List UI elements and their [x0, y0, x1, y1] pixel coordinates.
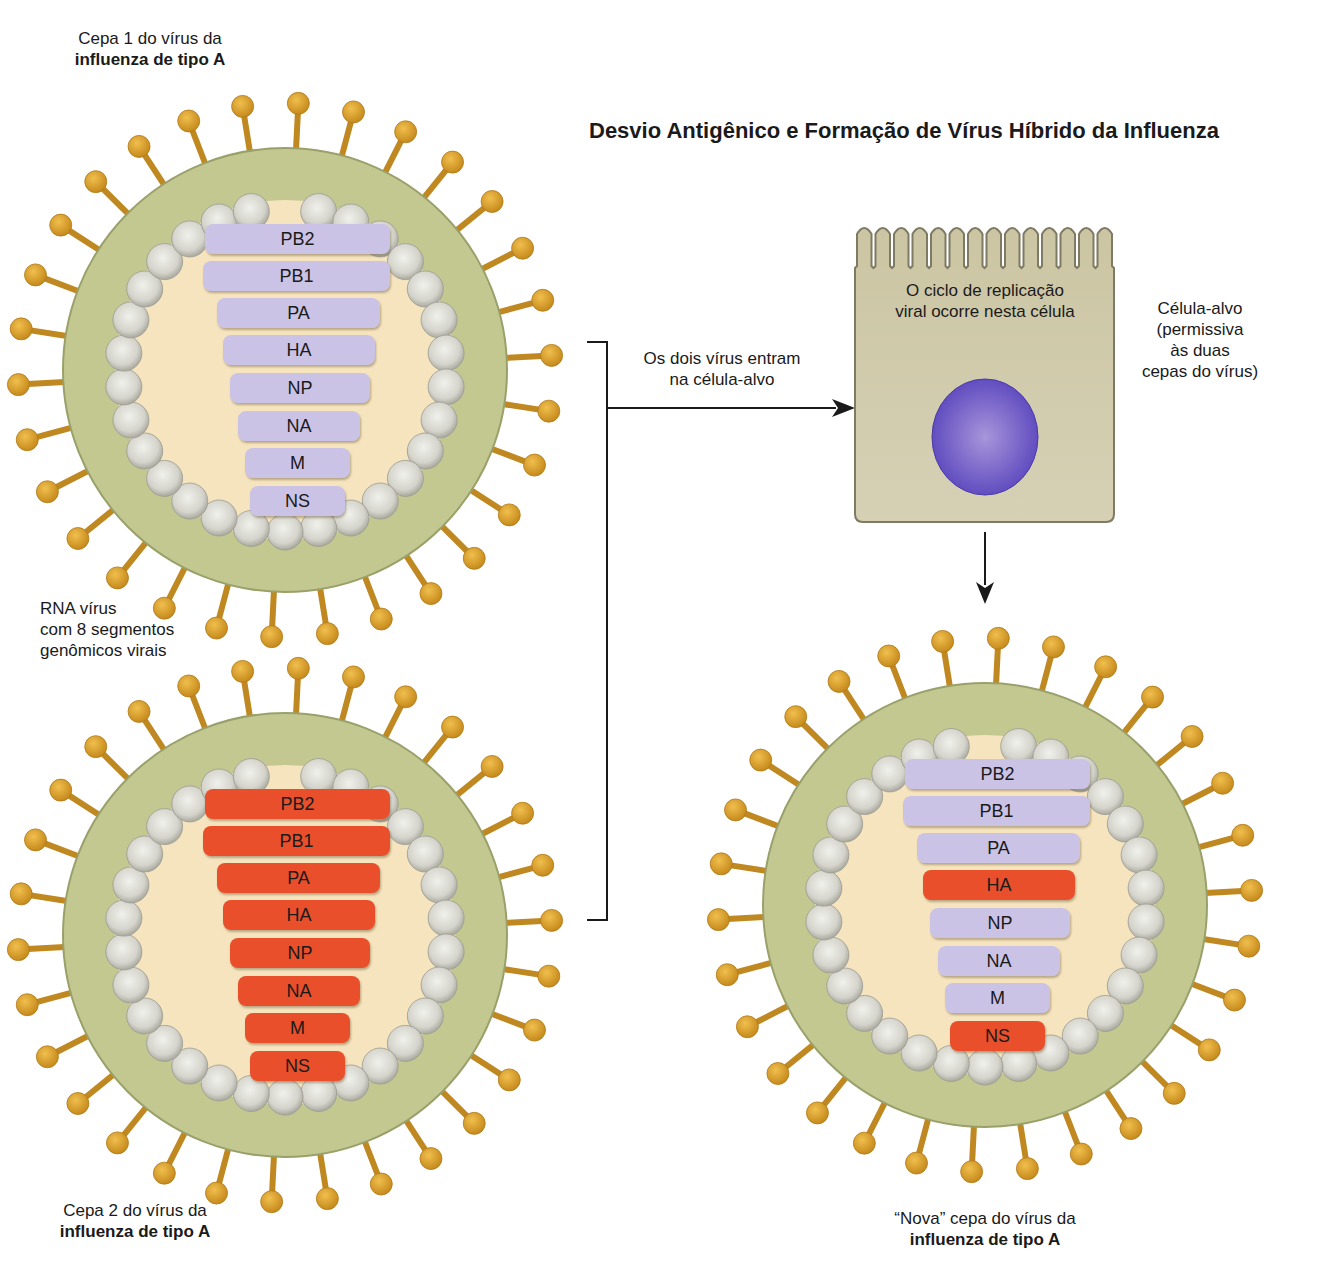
rna-segment-label: NS — [285, 491, 310, 511]
nucleoprotein-bead-icon — [428, 900, 464, 936]
spike-protein-icon — [7, 374, 69, 396]
spike-protein-icon — [16, 991, 76, 1015]
virus2-caption: Cepa 2 do vírus da influenza de tipo A — [25, 1200, 245, 1242]
spike-protein-icon — [421, 151, 464, 202]
spike-protein-icon — [716, 961, 776, 985]
virus2-caption-line1: Cepa 2 do vírus da — [25, 1200, 245, 1221]
entry-label-line1: Os dois vírus entram — [612, 348, 832, 369]
virus3-caption-line1: “Nova” cepa do vírus da — [860, 1208, 1110, 1229]
nucleoprotein-bead-icon — [421, 302, 457, 338]
spike-protein-icon — [261, 1151, 283, 1213]
spike-protein-icon — [710, 853, 771, 875]
rna-segment-label: NA — [286, 416, 311, 436]
spike-protein-icon — [363, 1136, 392, 1195]
spike-protein-icon — [25, 264, 84, 293]
spike-protein-icon — [383, 686, 417, 742]
spike-protein-icon — [153, 1128, 187, 1184]
spike-protein-icon — [50, 779, 104, 818]
cell-side-line1: Célula-alvo — [1120, 298, 1280, 319]
spike-protein-icon — [494, 854, 554, 878]
rna-segment-np: NP — [230, 373, 370, 403]
spike-protein-icon — [498, 400, 559, 422]
rna-segment-na: NA — [238, 411, 360, 441]
cell-side-line2: (permissiva — [1120, 319, 1280, 340]
spike-protein-icon — [1201, 879, 1263, 901]
spike-protein-icon — [36, 469, 92, 503]
nucleoprotein-bead-icon — [106, 369, 142, 405]
rna-segment-label: HA — [286, 905, 311, 925]
nucleoprotein-bead-icon — [113, 967, 149, 1003]
entry-label-line2: na célula-alvo — [612, 369, 832, 390]
spike-protein-icon — [421, 716, 464, 767]
spike-protein-icon — [363, 571, 392, 630]
rna-label-line2: com 8 segmentos — [40, 619, 174, 640]
rna-segment-pa: PA — [917, 833, 1080, 863]
rna-segment-label: HA — [986, 875, 1011, 895]
spike-protein-icon — [232, 95, 254, 156]
spike-protein-icon — [7, 939, 69, 961]
rna-segment-m: M — [245, 448, 350, 478]
nucleoprotein-bead-icon — [267, 514, 303, 550]
target-cell — [855, 228, 1114, 522]
spike-protein-icon — [961, 1121, 983, 1183]
spike-protein-icon — [494, 289, 554, 313]
rna-segment-label: PB1 — [979, 801, 1013, 821]
spike-protein-icon — [178, 110, 207, 169]
virus3-caption: “Nova” cepa do vírus da influenza de tip… — [860, 1208, 1110, 1250]
spike-protein-icon — [853, 1098, 887, 1154]
spike-protein-icon — [438, 1087, 485, 1134]
spike-protein-icon — [1083, 656, 1117, 712]
rna-segment-label: PB1 — [279, 266, 313, 286]
rna-segment-m: M — [945, 983, 1050, 1013]
rna-segment-label: NA — [286, 981, 311, 1001]
rna-segment-pa: PA — [217, 863, 380, 893]
spike-protein-icon — [128, 700, 167, 754]
rna-segment-label: M — [290, 1018, 305, 1038]
spike-protein-icon — [750, 749, 804, 788]
rna-label-line1: RNA vírus — [40, 598, 174, 619]
spike-protein-icon — [50, 214, 104, 253]
virus-new-strain: PB2PB1PAHANPNAMNS — [707, 627, 1262, 1182]
spike-protein-icon — [1194, 824, 1254, 848]
nucleoprotein-bead-icon — [106, 335, 142, 371]
spike-protein-icon — [466, 1052, 520, 1091]
cell-side-line4: cepas do vírus) — [1120, 361, 1280, 382]
spike-protein-icon — [498, 965, 559, 987]
spike-protein-icon — [106, 1103, 149, 1154]
rna-segment-label: PB2 — [980, 764, 1014, 784]
nucleoprotein-bead-icon — [428, 934, 464, 970]
spike-protein-icon — [10, 318, 71, 340]
spike-protein-icon — [878, 645, 907, 704]
spike-protein-icon — [340, 666, 364, 726]
spike-protein-icon — [453, 755, 504, 798]
nucleoprotein-bead-icon — [428, 369, 464, 405]
spike-protein-icon — [453, 190, 504, 233]
rna-segment-label: M — [990, 988, 1005, 1008]
nucleoprotein-bead-icon — [806, 870, 842, 906]
spike-protein-icon — [1198, 935, 1259, 957]
spike-protein-icon — [340, 101, 364, 161]
spike-protein-icon — [261, 586, 283, 648]
arrow-down-icon — [976, 582, 994, 604]
rna-segment-pb1: PB1 — [903, 796, 1090, 826]
nucleoprotein-bead-icon — [1121, 837, 1157, 873]
virus2-caption-line2: influenza de tipo A — [25, 1221, 245, 1242]
spike-protein-icon — [828, 670, 867, 724]
spike-protein-icon — [736, 1004, 792, 1038]
spike-protein-icon — [287, 92, 309, 154]
rna-segment-pa: PA — [217, 298, 380, 328]
spike-protein-icon — [85, 171, 132, 218]
rna-segment-pb2: PB2 — [205, 224, 390, 254]
spike-protein-icon — [10, 883, 71, 905]
spike-protein-icon — [438, 522, 485, 569]
rna-segment-label: PA — [287, 303, 310, 323]
rna-segment-na: NA — [238, 976, 360, 1006]
rna-segment-label: PB1 — [279, 831, 313, 851]
rna-segment-label: NP — [287, 943, 312, 963]
nucleoprotein-bead-icon — [813, 937, 849, 973]
spike-protein-icon — [287, 657, 309, 719]
spike-protein-icon — [1138, 1057, 1185, 1104]
spike-protein-icon — [1016, 1118, 1038, 1179]
spike-protein-icon — [501, 909, 563, 931]
spike-protein-icon — [987, 627, 1009, 689]
